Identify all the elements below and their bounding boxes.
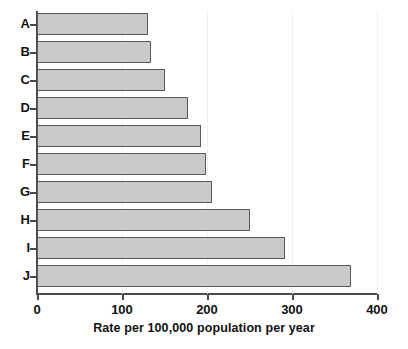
y-tick-mark bbox=[30, 220, 37, 222]
x-tick-mark bbox=[122, 294, 124, 300]
x-tick-mark bbox=[377, 294, 379, 300]
y-tick-label-wrap: H bbox=[0, 213, 30, 226]
bar-g bbox=[37, 181, 212, 203]
y-tick-label-i: I bbox=[4, 241, 30, 254]
bar-f bbox=[37, 153, 206, 175]
bar-d bbox=[37, 97, 188, 119]
y-tick-label-f: F bbox=[4, 157, 30, 170]
y-tick-label-g: G bbox=[4, 185, 30, 198]
bar-e bbox=[37, 125, 201, 147]
y-tick-label-b: B bbox=[4, 45, 30, 58]
y-tick-mark bbox=[30, 192, 37, 194]
bar-a bbox=[37, 13, 148, 35]
bar-c bbox=[37, 69, 165, 91]
bar-row bbox=[37, 153, 206, 175]
y-tick-mark bbox=[30, 276, 37, 278]
y-tick-mark bbox=[30, 136, 37, 138]
y-tick-label-wrap: J bbox=[0, 269, 30, 282]
bar-j bbox=[37, 265, 351, 287]
bar-row bbox=[37, 265, 351, 287]
x-tick-mark bbox=[292, 294, 294, 300]
bar-row bbox=[37, 237, 285, 259]
bar-row bbox=[37, 209, 250, 231]
gridline bbox=[292, 11, 293, 294]
x-tick-label: 300 bbox=[272, 302, 312, 317]
y-tick-mark bbox=[30, 80, 37, 82]
bar-row bbox=[37, 41, 151, 63]
gridline bbox=[377, 11, 378, 294]
x-tick-mark bbox=[37, 294, 39, 300]
y-tick-label-d: D bbox=[4, 101, 30, 114]
y-tick-label-a: A bbox=[4, 17, 30, 30]
bar-h bbox=[37, 209, 250, 231]
x-tick-label: 400 bbox=[357, 302, 397, 317]
y-tick-mark bbox=[30, 108, 37, 110]
y-tick-label-wrap: I bbox=[0, 241, 30, 254]
y-tick-mark bbox=[30, 164, 37, 166]
y-tick-label-c: C bbox=[4, 73, 30, 86]
bar-row bbox=[37, 125, 201, 147]
bar-i bbox=[37, 237, 285, 259]
bar-b bbox=[37, 41, 151, 63]
y-tick-label-wrap: F bbox=[0, 157, 30, 170]
bar-chart: ABCDEFGHIJ 0100200300400 Rate per 100,00… bbox=[0, 0, 408, 349]
y-tick-mark bbox=[30, 52, 37, 54]
y-tick-mark bbox=[30, 248, 37, 250]
y-tick-label-wrap: E bbox=[0, 129, 30, 142]
y-tick-label-e: E bbox=[4, 129, 30, 142]
y-tick-label-wrap: A bbox=[0, 17, 30, 30]
bar-row bbox=[37, 69, 165, 91]
y-tick-label-wrap: D bbox=[0, 101, 30, 114]
x-tick-label: 0 bbox=[17, 302, 57, 317]
y-tick-label-wrap: G bbox=[0, 185, 30, 198]
bar-row bbox=[37, 13, 148, 35]
bar-row bbox=[37, 97, 188, 119]
x-axis-title: Rate per 100,000 population per year bbox=[0, 321, 408, 335]
x-tick-label: 100 bbox=[102, 302, 142, 317]
y-tick-label-j: J bbox=[4, 269, 30, 282]
y-tick-mark bbox=[30, 24, 37, 26]
x-tick-label: 200 bbox=[187, 302, 227, 317]
y-tick-label-wrap: C bbox=[0, 73, 30, 86]
y-tick-label-h: H bbox=[4, 213, 30, 226]
x-tick-mark bbox=[207, 294, 209, 300]
bar-row bbox=[37, 181, 212, 203]
y-tick-label-wrap: B bbox=[0, 45, 30, 58]
